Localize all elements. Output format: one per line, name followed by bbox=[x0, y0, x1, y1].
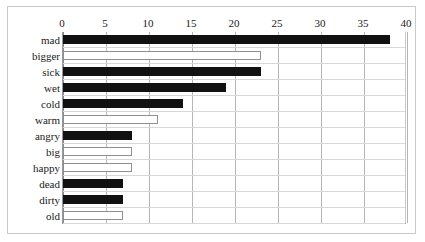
bar-row bbox=[63, 32, 405, 48]
bar-row bbox=[63, 112, 405, 128]
gridline bbox=[407, 32, 408, 223]
y-axis-category-label-column: madbiggersickwetcoldwarmangrybighappydea… bbox=[8, 32, 60, 224]
bar-row bbox=[63, 160, 405, 176]
y-category-label: bigger bbox=[8, 48, 60, 64]
x-tick-label: 10 bbox=[143, 15, 154, 31]
bar-row bbox=[63, 176, 405, 192]
bar-row bbox=[63, 192, 405, 208]
y-category-label: dead bbox=[8, 176, 60, 192]
y-category-label: old bbox=[8, 208, 60, 224]
x-tick-label: 40 bbox=[401, 15, 412, 31]
bar-bigger bbox=[63, 51, 261, 60]
bar-mad bbox=[63, 35, 390, 44]
row-separator bbox=[63, 223, 405, 224]
bar-cold bbox=[63, 99, 183, 108]
x-tick-label: 0 bbox=[59, 15, 65, 31]
x-tick-label: 35 bbox=[358, 15, 369, 31]
bar-row bbox=[63, 208, 405, 224]
x-tick-label: 15 bbox=[186, 15, 197, 31]
y-category-label: sick bbox=[8, 64, 60, 80]
bar-dirty bbox=[63, 195, 123, 204]
y-category-label: cold bbox=[8, 96, 60, 112]
bar-row bbox=[63, 64, 405, 80]
plot-area bbox=[62, 32, 406, 224]
bar-row bbox=[63, 80, 405, 96]
x-tick-label: 25 bbox=[272, 15, 283, 31]
x-axis-tick-label-strip: 0510152025303540 bbox=[8, 15, 415, 31]
bar-row bbox=[63, 128, 405, 144]
bar-wet bbox=[63, 83, 226, 92]
x-tick-label: 20 bbox=[229, 15, 240, 31]
x-tick-label: 30 bbox=[315, 15, 326, 31]
y-category-label: angry bbox=[8, 128, 60, 144]
bar-row bbox=[63, 144, 405, 160]
bar-chart-figure: 0510152025303540 madbiggersickwetcoldwar… bbox=[7, 6, 416, 234]
bars-layer bbox=[63, 32, 405, 223]
bar-big bbox=[63, 147, 132, 156]
bar-happy bbox=[63, 163, 132, 172]
bar-angry bbox=[63, 131, 132, 140]
y-category-label: dirty bbox=[8, 192, 60, 208]
bar-row bbox=[63, 48, 405, 64]
bar-dead bbox=[63, 179, 123, 188]
y-category-label: big bbox=[8, 144, 60, 160]
y-category-label: warm bbox=[8, 112, 60, 128]
y-category-label: mad bbox=[8, 32, 60, 48]
bar-row bbox=[63, 96, 405, 112]
bar-sick bbox=[63, 67, 261, 76]
bar-warm bbox=[63, 115, 158, 124]
y-category-label: wet bbox=[8, 80, 60, 96]
x-tick-label: 5 bbox=[102, 15, 108, 31]
bar-old bbox=[63, 211, 123, 220]
y-category-label: happy bbox=[8, 160, 60, 176]
